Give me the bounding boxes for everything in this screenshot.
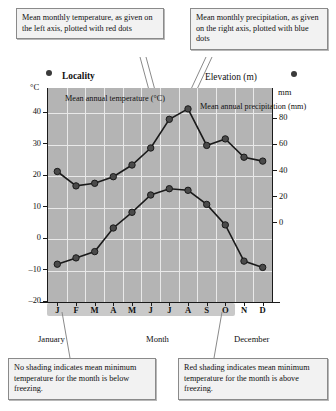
leader-lines-bottom [0,0,336,411]
